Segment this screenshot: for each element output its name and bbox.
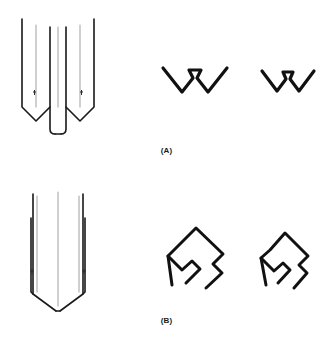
- body-right-edge: [60, 194, 83, 311]
- center-tube-right-edge: [61, 27, 66, 134]
- panel-a-profile-narrow: [262, 71, 314, 91]
- panel-a-label: (A): [0, 146, 333, 156]
- tube-interior-lines: [36, 25, 80, 107]
- profile-wide-outline-lower: [168, 256, 200, 283]
- panel-b-profile-wide: [168, 228, 223, 288]
- figure-root: (A): [0, 0, 333, 341]
- profile-narrow-outline-upper: [261, 233, 308, 288]
- profile-wide-outline-upper: [168, 228, 223, 288]
- panel-a-graphics: [0, 0, 333, 170]
- tube-interior-lines: [37, 192, 79, 306]
- panel-b-label: (B): [0, 316, 333, 326]
- panel-b: (B): [0, 170, 333, 341]
- panel-a-profile-wide: [163, 68, 227, 92]
- profile-narrow-outline: [262, 71, 314, 91]
- profile-wide-outline: [163, 68, 227, 92]
- center-tube-left-edge: [50, 27, 55, 134]
- panel-b-profile-narrow: [261, 233, 308, 288]
- panel-a: (A): [0, 0, 333, 170]
